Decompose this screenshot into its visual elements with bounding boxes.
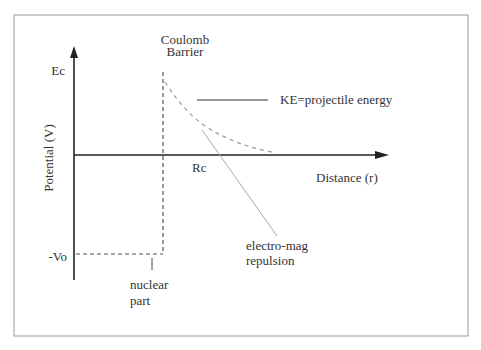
ke-label: KE=projectile energy <box>280 92 393 107</box>
coulomb-barrier-diagram: Coulomb Barrier Ec -Vo Potential (V) Rc … <box>0 0 481 350</box>
y-axis-label: Potential (V) <box>41 124 56 192</box>
nuclear-label-line1: nuclear <box>130 277 169 292</box>
em-label-line1: electro-mag <box>246 238 309 253</box>
nuclear-label-line2: part <box>130 293 151 308</box>
x-tick-rc: Rc <box>192 160 207 175</box>
barrier-title-line2: Barrier <box>167 44 204 59</box>
x-axis-label: Distance (r) <box>316 170 378 185</box>
em-label-line2: repulsion <box>246 253 295 268</box>
y-tick-vo: -Vo <box>48 249 67 264</box>
diagram-frame <box>14 15 468 336</box>
y-tick-ec: Ec <box>51 63 65 78</box>
